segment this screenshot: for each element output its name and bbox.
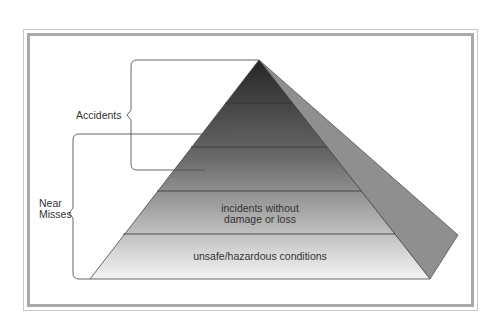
near-misses-line2: Misses: [39, 209, 72, 220]
layer4-label: incidents without damage or loss: [200, 203, 320, 225]
accidents-label: Accidents: [76, 110, 122, 121]
pyramid-diagram: [0, 0, 500, 315]
layer4-line2: damage or loss: [200, 214, 320, 225]
near-misses-label: Near Misses: [39, 198, 72, 220]
layer5-label: unsafe/hazardous conditions: [180, 251, 340, 262]
